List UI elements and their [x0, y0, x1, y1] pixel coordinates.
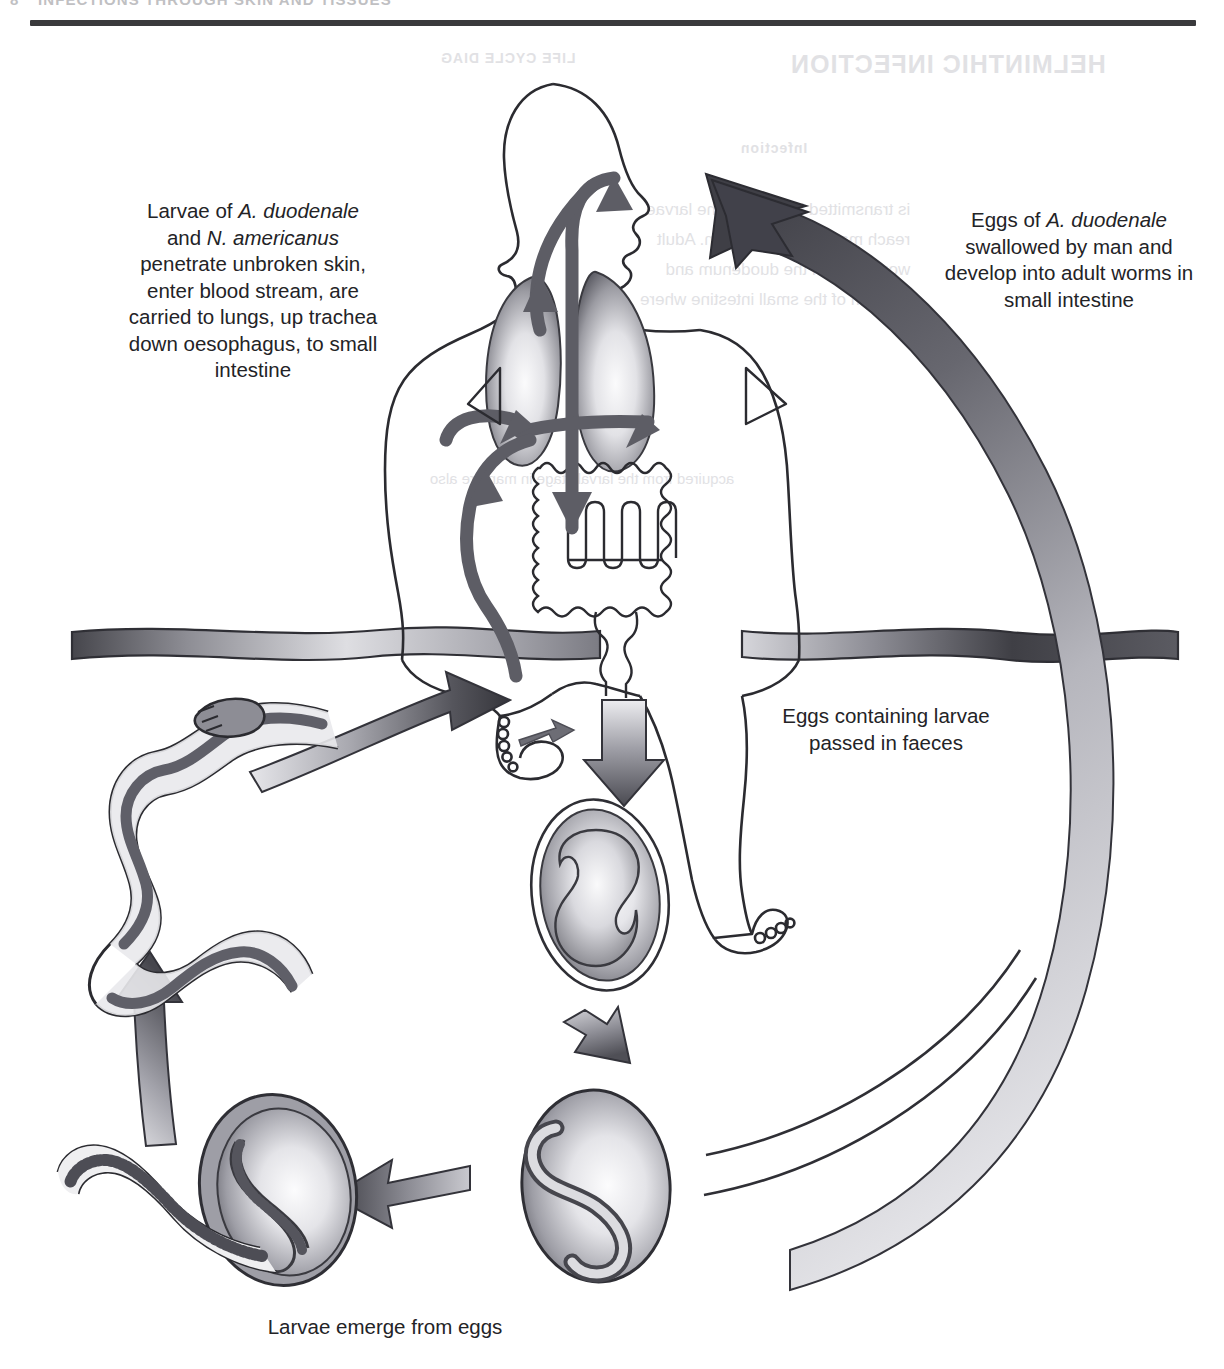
caption-right-rest: swallowed by man and develop into adult …: [945, 235, 1193, 311]
adult-worm: [89, 699, 338, 1016]
page-canvas: 8 INFECTIONS THROUGH SKIN AND TISSUES HE…: [0, 0, 1224, 1369]
caption-left-rest: penetrate unbroken skin, enter blood str…: [129, 252, 377, 381]
caption-left-species1: A. duodenale: [238, 199, 359, 222]
egg-larvated: [515, 1085, 676, 1287]
caption-left-line2a: and: [167, 226, 207, 249]
small-intestine: [533, 463, 676, 698]
egg-two-cell: [519, 790, 680, 999]
caption-right-species: A. duodenale: [1046, 208, 1167, 231]
faeces-down-arrow: [584, 700, 664, 806]
caption-larvae-emerge: Larvae emerge from eggs: [0, 1314, 770, 1341]
caption-eggs-in-faeces: Eggs containing larvae passed in faeces: [776, 703, 996, 756]
caption-ingestion: Eggs of A. duodenale swallowed by man an…: [938, 207, 1200, 313]
egg-development-arrow: [564, 1007, 630, 1063]
egg-hatching: [58, 1082, 371, 1298]
caption-right-line1a: Eggs of: [971, 208, 1046, 231]
caption-left-line1a: Larvae of: [147, 199, 238, 222]
caption-left-species2: N. americanus: [207, 226, 339, 249]
trachea-and-vessels: [446, 178, 648, 676]
caption-skin-penetration: Larvae of A. duodenale and N. americanus…: [128, 198, 378, 384]
